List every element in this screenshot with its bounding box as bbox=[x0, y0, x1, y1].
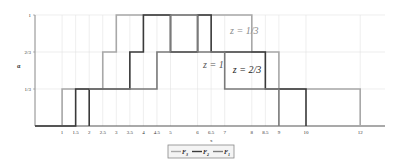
x-tick-label: 4.5 bbox=[154, 130, 161, 135]
y-tick-label: 1 bbox=[29, 13, 32, 18]
y-tick-labels: 1/32/31 bbox=[25, 13, 35, 92]
legend: F3F2F1 bbox=[168, 145, 234, 158]
x-tick-label: 12 bbox=[358, 130, 364, 135]
x-tick-label: 5 bbox=[169, 130, 172, 135]
axes bbox=[35, 15, 385, 126]
x-tick-label: 9 bbox=[278, 130, 281, 135]
x-tick-label: 1.5 bbox=[73, 130, 80, 135]
annotation-label: z = 1/3 bbox=[229, 25, 258, 36]
grid-lines bbox=[35, 15, 385, 126]
step-chart: 1/32/31 11.522.533.544.5566.5788.591012 … bbox=[0, 0, 403, 167]
x-tick-label: 3.5 bbox=[127, 130, 134, 135]
x-tick-label: 8 bbox=[251, 130, 254, 135]
y-tick-label: 1/3 bbox=[25, 87, 32, 92]
x-axis-label: x bbox=[210, 138, 213, 143]
y-axis-label: α bbox=[17, 63, 21, 69]
x-tick-label: 8.5 bbox=[262, 130, 269, 135]
y-tick-label: 2/3 bbox=[25, 50, 32, 55]
x-tick-label: 2.5 bbox=[100, 130, 107, 135]
annotation-label: z = 1 bbox=[202, 59, 224, 70]
annotation-label: z = 2/3 bbox=[232, 64, 261, 75]
x-tick-label: 6.5 bbox=[208, 130, 215, 135]
x-tick-label: 1 bbox=[61, 130, 64, 135]
x-tick-label: 10 bbox=[304, 130, 310, 135]
x-tick-label: 2 bbox=[88, 130, 91, 135]
x-tick-label: 4 bbox=[142, 130, 145, 135]
x-tick-label: 3 bbox=[115, 130, 118, 135]
x-tick-label: 7 bbox=[223, 130, 226, 135]
x-tick-label: 6 bbox=[196, 130, 199, 135]
x-tick-labels: 11.522.533.544.5566.5788.591012 bbox=[61, 130, 363, 135]
